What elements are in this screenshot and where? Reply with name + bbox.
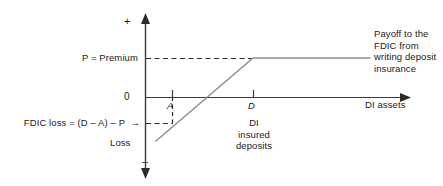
vertical-axis-up-arrowhead xyxy=(141,13,150,24)
tick-label-d: D xyxy=(248,100,255,112)
di-insured-deposits-label: DI insured deposits xyxy=(219,117,289,152)
payoff-annotation-label: Payoff to the FDIC from writing deposit … xyxy=(374,28,443,74)
premium-label-rest: = Premium xyxy=(88,52,138,63)
axis-ticks xyxy=(173,90,254,98)
guide-lines xyxy=(146,59,253,125)
fdic-payoff-diagram: + – 0 P = Premium FDIC loss = (D – A) – … xyxy=(0,0,443,186)
y-axis-positive-sign: + xyxy=(124,16,131,28)
loss-axis-label: Loss xyxy=(110,137,130,149)
origin-label: 0 xyxy=(124,91,130,103)
x-axis-label: DI assets xyxy=(365,99,406,111)
y-axis-negative-sign: – xyxy=(142,156,148,168)
tick-label-a: A xyxy=(167,100,173,112)
fdic-loss-label: FDIC loss = (D – A) – P → xyxy=(6,117,140,129)
premium-level-label: P = Premium xyxy=(58,52,138,64)
vertical-axis-down-arrowhead xyxy=(141,168,150,179)
